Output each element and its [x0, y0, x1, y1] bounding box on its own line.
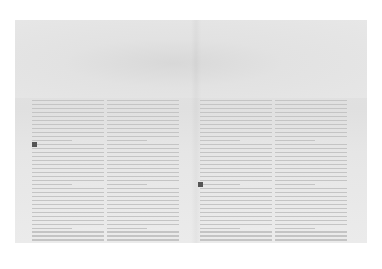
text-line: [32, 116, 104, 117]
text-line: [275, 104, 347, 105]
text-line: [200, 212, 272, 213]
text-line: [275, 124, 347, 125]
text-line: [200, 108, 272, 109]
text-line: [275, 184, 315, 185]
text-line: [275, 144, 347, 145]
text-line: [32, 168, 104, 169]
text-line: [107, 104, 179, 105]
text-line: [32, 176, 104, 177]
text-line: [200, 116, 272, 117]
text-line: [32, 160, 104, 161]
text-line: [200, 124, 272, 125]
text-line: [32, 132, 104, 133]
text-line: [107, 231, 179, 232]
text-line: [275, 168, 347, 169]
text-line: [200, 184, 240, 185]
text-line: [107, 128, 179, 129]
text-line: [200, 239, 272, 240]
text-line: [200, 132, 272, 133]
text-line: [275, 120, 347, 121]
text-line: [32, 231, 104, 232]
left-page-column-1: [32, 100, 104, 243]
text-line: [107, 124, 179, 125]
text-line: [32, 128, 104, 129]
text-line: [275, 216, 347, 217]
text-line: [275, 208, 347, 209]
text-line: [107, 136, 179, 137]
text-line: [32, 144, 104, 145]
text-line: [32, 156, 104, 157]
text-line: [200, 188, 272, 189]
text-line: [32, 124, 104, 125]
text-line: [275, 235, 347, 236]
text-line: [107, 239, 179, 240]
text-line: [32, 239, 104, 240]
text-line: [200, 220, 272, 221]
text-line: [275, 239, 347, 240]
text-line: [275, 228, 315, 229]
right-page-column-1: [200, 100, 272, 243]
text-line: [107, 228, 147, 229]
text-line: [107, 235, 179, 236]
text-line: [275, 128, 347, 129]
text-line: [275, 231, 347, 232]
text-line: [107, 216, 179, 217]
drop-cap-b: [32, 142, 37, 147]
text-line: [32, 112, 104, 113]
text-line: [107, 212, 179, 213]
left-page-column-2: [107, 100, 179, 243]
text-line: [32, 188, 104, 189]
text-line: [107, 160, 179, 161]
text-line: [32, 120, 104, 121]
text-line: [275, 180, 347, 181]
text-line: [200, 160, 272, 161]
text-line: [200, 104, 272, 105]
text-line: [107, 108, 179, 109]
text-line: [200, 100, 272, 101]
text-line: [275, 140, 315, 141]
text-line: [275, 100, 347, 101]
text-line: [275, 156, 347, 157]
text-line: [107, 184, 147, 185]
text-line: [275, 212, 347, 213]
text-line: [32, 200, 104, 201]
text-line: [275, 188, 347, 189]
text-line: [275, 224, 347, 225]
text-line: [32, 228, 72, 229]
magazine-spread: [15, 20, 367, 243]
text-line: [32, 220, 104, 221]
text-line: [107, 220, 179, 221]
text-line: [107, 168, 179, 169]
text-line: [275, 196, 347, 197]
text-line: [275, 148, 347, 149]
text-line: [32, 235, 104, 236]
text-line: [200, 196, 272, 197]
text-line: [107, 208, 179, 209]
text-line: [200, 120, 272, 121]
text-line: [107, 196, 179, 197]
text-line: [107, 144, 179, 145]
text-line: [200, 176, 272, 177]
text-line: [200, 208, 272, 209]
text-line: [32, 184, 72, 185]
text-line: [275, 152, 347, 153]
text-line: [32, 208, 104, 209]
text-line: [200, 200, 272, 201]
text-line: [275, 200, 347, 201]
text-line: [32, 140, 72, 141]
text-line: [275, 192, 347, 193]
text-line: [107, 156, 179, 157]
text-line: [107, 172, 179, 173]
text-line: [32, 196, 104, 197]
text-line: [107, 188, 179, 189]
text-line: [32, 148, 104, 149]
text-line: [275, 164, 347, 165]
text-line: [200, 144, 272, 145]
text-line: [107, 204, 179, 205]
text-line: [200, 231, 272, 232]
text-line: [275, 172, 347, 173]
text-line: [32, 224, 104, 225]
text-line: [275, 108, 347, 109]
text-line: [200, 140, 240, 141]
text-line: [275, 220, 347, 221]
